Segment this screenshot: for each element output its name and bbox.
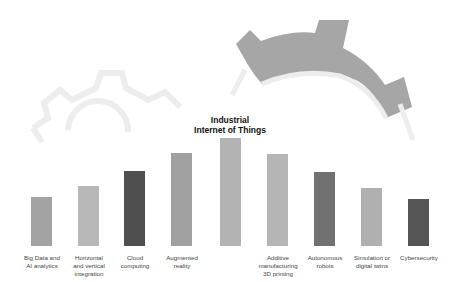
bar-big-data <box>31 197 52 246</box>
bar-center <box>220 138 241 246</box>
bar-cybersecurity <box>408 199 429 246</box>
title-line-2: Internet of Things <box>170 126 290 136</box>
gear-outline-icon <box>33 73 180 142</box>
label-cybersecurity: Cybersecurity <box>391 254 447 262</box>
label-augmented: Augmented reality <box>154 254 210 270</box>
bar-horizontal-vertical <box>78 186 99 246</box>
bar-augmented <box>171 153 192 246</box>
bar-autonomous <box>314 172 335 246</box>
bar-simulation <box>361 188 382 246</box>
bar-additive <box>267 154 288 246</box>
bar-cloud <box>124 171 145 246</box>
chart-title: Industrial Internet of Things <box>170 116 290 135</box>
